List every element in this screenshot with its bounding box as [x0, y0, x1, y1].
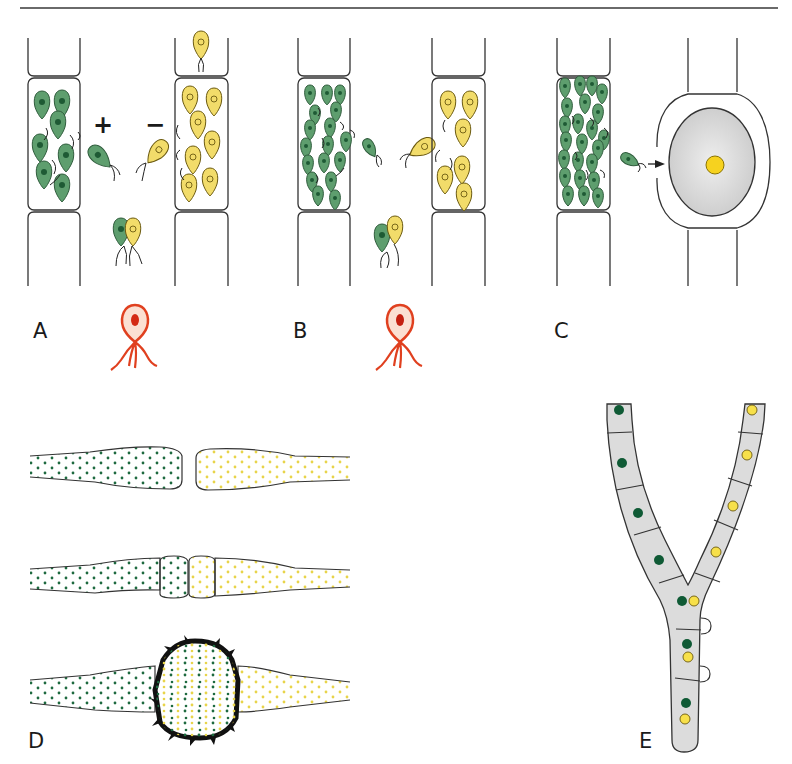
zygote-gamete-red-a — [111, 305, 157, 370]
filament-minus-a — [175, 31, 228, 286]
green-gametes-cluster-c — [559, 76, 610, 208]
arrowhead-icon — [655, 160, 665, 168]
oogonium-c — [657, 38, 770, 286]
panel-label-a: A — [33, 319, 48, 343]
panel-label-c: C — [554, 319, 569, 343]
panel-label-d: D — [28, 729, 44, 753]
minus-sign: − — [145, 111, 165, 139]
panel-e: E — [607, 404, 765, 753]
zygospore-d — [30, 635, 350, 746]
zygote-gamete-red-b — [376, 305, 422, 370]
egg-nucleus — [706, 156, 724, 174]
green-gametes-cluster-b — [301, 85, 355, 210]
biology-figure: + − A — [0, 0, 792, 764]
panel-d: D — [28, 447, 350, 753]
panel-b: B — [293, 38, 485, 370]
yellow-gametes-cluster-b — [436, 91, 478, 211]
fusing-gametes-b — [374, 216, 402, 268]
panel-a: + − A — [28, 31, 228, 370]
free-sperm-c — [619, 150, 665, 172]
free-gamete-minus-a — [136, 136, 172, 181]
clamp-connections — [700, 618, 711, 682]
free-gamete-plus-a — [85, 142, 120, 181]
gametangia-contact-d — [30, 556, 350, 598]
panel-label-e: E — [639, 729, 652, 753]
yellow-gametes-cluster-a — [176, 86, 221, 202]
free-gamete-plus-b — [360, 137, 381, 167]
hyphae-approaching-d — [30, 447, 350, 490]
green-gametes-cluster-a — [32, 90, 80, 202]
panel-label-b: B — [293, 319, 307, 343]
fusing-gametes-a — [113, 218, 142, 266]
plus-sign: + — [93, 111, 113, 139]
panel-c: C — [554, 38, 770, 343]
